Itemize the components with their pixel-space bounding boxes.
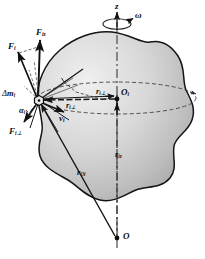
point-O	[115, 236, 120, 241]
label-velocity-sub: i	[63, 117, 65, 123]
label-velocity: vi	[59, 114, 65, 124]
label-radius-axial: riz	[115, 150, 122, 159]
vector-force-total	[18, 52, 38, 100]
label-mass-sub: i	[14, 92, 15, 98]
label-point-Oi-sub: i	[128, 91, 130, 97]
diagram-canvas	[0, 0, 205, 259]
label-mass-main: m	[7, 88, 14, 98]
label-radius-origin: rOi	[77, 168, 86, 177]
particle-mass-element	[35, 96, 44, 106]
label-angle-alpha: αi	[19, 106, 25, 115]
physics-diagram: z ω O Oi Δmi αi Fi Fiz Fi⊥ vi ri⊥ ri⊥ ri…	[0, 0, 205, 259]
label-radius-origin-sub: Oi	[80, 171, 85, 177]
label-alpha-sub: i	[24, 109, 25, 115]
label-radius-axial-sub: iz	[118, 153, 122, 159]
label-radius-perp-upper-sub: i⊥	[99, 90, 105, 96]
label-z-axis: z	[115, 2, 119, 11]
label-force-total-sub: i	[14, 45, 16, 51]
label-force-total: Fi	[8, 42, 16, 52]
label-mass-element: Δmi	[2, 89, 15, 98]
label-force-axial-sub: iz	[42, 31, 46, 37]
label-radius-perp-lower-sub: i⊥	[69, 104, 75, 110]
label-force-perp: Fi⊥	[9, 127, 22, 137]
label-origin-O: O	[123, 232, 130, 241]
label-omega: ω	[135, 11, 142, 20]
label-point-Oi: Oi	[121, 88, 129, 98]
omega-rotation-indicator	[103, 18, 133, 29]
label-radius-perp-lower: ri⊥	[66, 101, 76, 110]
label-radius-perp-upper: ri⊥	[96, 87, 106, 96]
label-force-perp-sub: i⊥	[15, 130, 22, 136]
label-force-axial: Fiz	[36, 28, 46, 38]
vector-force-axial	[19, 40, 40, 100]
vector-force-perp	[24, 102, 38, 122]
